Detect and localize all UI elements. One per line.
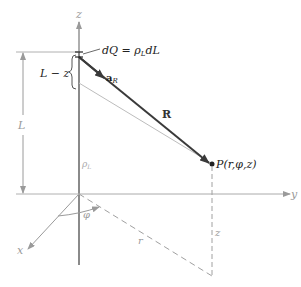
phi-label: φ [83, 209, 90, 220]
x-axis-label: x [17, 244, 24, 257]
aR-label: aR [106, 72, 118, 85]
y-axis-label: y [290, 188, 298, 201]
reference-line [79, 83, 211, 163]
L-minus-z-brace [69, 55, 76, 89]
z-axis-label: z [75, 8, 82, 21]
rho-L-label: ρL [81, 159, 91, 170]
r-label: r [138, 235, 144, 246]
x-axis [28, 194, 79, 249]
R-label: R [162, 108, 172, 121]
point-P[interactable] [210, 162, 215, 167]
L-minus-z-label: L − z [39, 67, 70, 80]
P-label: P(r,φ,z) [215, 158, 257, 171]
dQ-label: dQ = ρLdL [102, 44, 160, 58]
L-label: L [17, 119, 25, 132]
dQ-leader [83, 49, 100, 54]
r-radial-dashed [79, 194, 212, 276]
aR-unit-vector [79, 57, 104, 78]
z-height-label: z [214, 227, 221, 238]
diagram-canvas: z y x dQ = ρLdL L − z L aR R P(r,φ,z) ρL… [0, 0, 301, 287]
